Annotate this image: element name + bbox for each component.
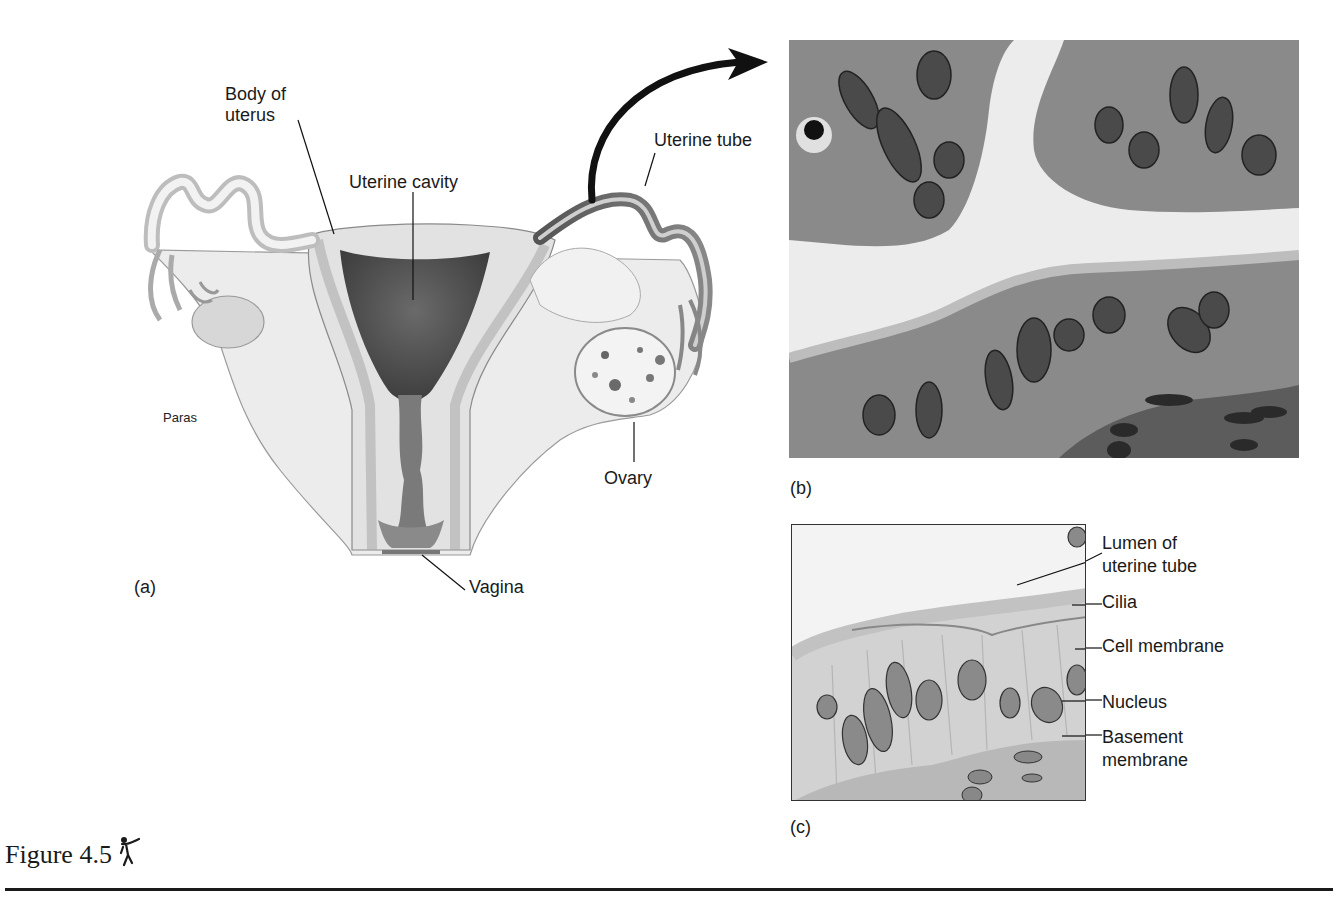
label-paras: Paras	[163, 410, 197, 426]
label-nucleus: Nucleus	[1102, 691, 1167, 713]
caption-rule	[5, 888, 1333, 891]
label-uterine-tube: Uterine tube	[654, 130, 752, 151]
label-lumen-line2: uterine tube	[1102, 555, 1197, 577]
label-body-of-uterus-line2: uterus	[225, 105, 275, 126]
label-body-of-uterus-line1: Body of	[225, 84, 286, 105]
label-uterine-cavity: Uterine cavity	[349, 172, 458, 193]
figure-caption: Figure 4.5	[5, 835, 140, 870]
label-ovary: Ovary	[604, 468, 652, 489]
figure-caption-text: Figure 4.5	[5, 840, 112, 869]
uterus-illustration	[0, 0, 800, 620]
micrograph-b-image	[789, 40, 1299, 458]
label-lumen-line1: Lumen of	[1102, 532, 1177, 554]
panel-c-tag: (c)	[790, 817, 811, 838]
micrograph-c	[791, 524, 1086, 801]
label-vagina: Vagina	[469, 577, 524, 598]
tutor-figure-icon	[118, 835, 140, 867]
label-cell-membrane: Cell membrane	[1102, 635, 1224, 657]
label-basement-line2: membrane	[1102, 749, 1188, 771]
panel-b-tag: (b)	[790, 478, 812, 499]
label-cilia: Cilia	[1102, 591, 1137, 613]
micrograph-c-image	[792, 525, 1086, 801]
panel-a-tag: (a)	[134, 577, 156, 598]
micrograph-b	[789, 40, 1299, 458]
label-basement-line1: Basement	[1102, 726, 1183, 748]
